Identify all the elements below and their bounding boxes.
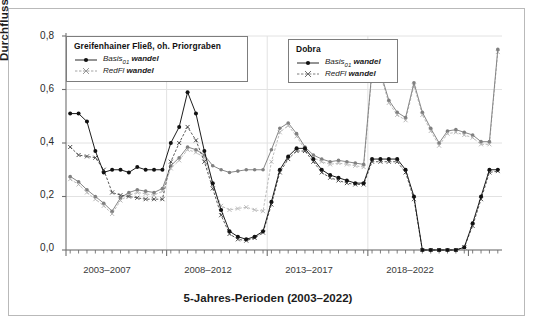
data-point: [152, 168, 156, 172]
data-point: [261, 229, 265, 233]
data-point: [496, 168, 500, 172]
y-tick-label-0: 0,8: [28, 30, 54, 41]
data-point: [93, 149, 97, 153]
data-point: [211, 164, 215, 168]
data-point: [77, 180, 81, 184]
y-axis-title: Durchfluss [m³/s]: [0, 0, 10, 92]
data-point: [362, 181, 366, 185]
data-point: [337, 176, 341, 180]
data-point: [228, 171, 232, 175]
data-point: [278, 168, 282, 172]
data-point: [404, 168, 408, 172]
data-point: [135, 165, 139, 169]
legend-entry-label: Basis01 wandel: [103, 54, 159, 65]
data-point: [378, 157, 382, 161]
data-point: [286, 121, 290, 125]
data-point: [244, 237, 248, 241]
legend-entry: RedFl wandel: [74, 65, 240, 76]
data-point: [295, 132, 299, 136]
data-point: [412, 81, 416, 85]
series-line: [70, 127, 498, 250]
data-point: [387, 157, 391, 161]
legend-entry: Basis01 wandel: [74, 54, 240, 65]
data-point: [328, 173, 332, 177]
series-line: [70, 92, 498, 250]
data-point: [312, 153, 316, 157]
data-point: [102, 170, 106, 174]
data-point: [194, 148, 198, 152]
data-point: [119, 168, 123, 172]
data-point: [370, 157, 374, 161]
data-point: [144, 168, 148, 172]
data-point: [161, 187, 165, 191]
data-point: [202, 149, 206, 153]
data-point: [303, 146, 307, 150]
data-point: [94, 195, 98, 199]
data-point: [211, 181, 215, 185]
x-tick-label-3: 2018–2022: [370, 264, 450, 275]
data-point: [496, 48, 500, 52]
data-point: [286, 154, 290, 158]
data-point: [177, 125, 181, 129]
legend-greifenhainer: Greifenhainer Fließ, oh. Priorgraben Bas…: [66, 36, 248, 82]
data-point: [160, 168, 164, 172]
data-point: [127, 191, 131, 195]
y-tick-label-4: 0,0: [28, 242, 54, 253]
data-point: [437, 248, 441, 252]
data-point: [487, 168, 491, 172]
data-point: [278, 126, 282, 130]
data-point: [446, 248, 450, 252]
x-axis-title: 5-Jahres-Perioden (2003–2022): [66, 292, 470, 304]
data-point: [446, 129, 450, 133]
data-point: [253, 235, 257, 239]
legend-key-cross-icon: [74, 66, 98, 76]
y-tick-label-2: 0,4: [28, 136, 54, 147]
data-point: [186, 90, 190, 94]
data-point: [236, 169, 240, 173]
data-point: [353, 161, 357, 165]
data-point: [127, 170, 131, 174]
legend-key-cross-icon: [296, 69, 320, 79]
data-point: [244, 168, 248, 172]
chart-container: Durchfluss [m³/s] 5-Jahres-Perioden (200…: [0, 0, 535, 326]
legend-dobra: Dobra Basis01 wandel RedFl wandel: [288, 39, 398, 83]
data-point: [404, 116, 408, 120]
legend-title: Dobra: [296, 44, 390, 54]
data-point: [471, 221, 475, 225]
series-0: [68, 90, 500, 252]
data-point: [488, 140, 492, 144]
data-point: [236, 235, 240, 239]
data-point: [345, 178, 349, 182]
data-point: [454, 128, 458, 132]
data-point: [77, 112, 81, 116]
data-point: [85, 120, 89, 124]
data-point: [412, 195, 416, 199]
data-point: [194, 112, 198, 116]
data-point: [337, 159, 341, 163]
x-tick-label-1: 2008–2012: [168, 264, 248, 275]
data-point: [479, 140, 483, 144]
legend-entry: RedFl wandel: [296, 68, 390, 79]
data-point: [152, 191, 156, 195]
x-tick-label-0: 2003–2007: [67, 264, 147, 275]
legend-entry-label: RedFl wandel: [103, 66, 154, 75]
y-tick-label-1: 0,6: [28, 83, 54, 94]
data-point: [135, 188, 139, 192]
data-point: [253, 168, 257, 172]
data-point: [110, 168, 114, 172]
data-point: [261, 168, 265, 172]
data-point: [295, 146, 299, 150]
data-point: [144, 189, 148, 193]
data-point: [421, 110, 425, 114]
legend-key-circle-icon: [296, 58, 320, 68]
data-point: [328, 160, 332, 164]
data-point: [462, 131, 466, 135]
data-point: [186, 145, 190, 149]
data-point: [437, 141, 441, 145]
legend-entry-label: Basis01 wandel: [325, 57, 381, 68]
data-point: [387, 98, 391, 102]
data-point: [169, 141, 173, 145]
data-point: [395, 157, 399, 161]
data-point: [462, 245, 466, 249]
data-point: [420, 248, 424, 252]
